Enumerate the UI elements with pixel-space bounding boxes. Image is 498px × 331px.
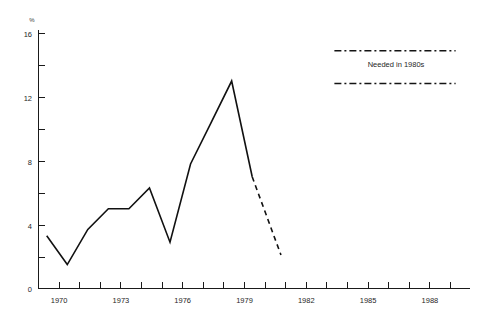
x-tick-label-1973: 1973 [113,296,130,305]
x-tick-label-1979: 1979 [236,296,253,305]
x-tick-label-1976: 1976 [174,296,191,305]
y-axis-label: % [29,17,35,23]
series-line-projected [252,177,281,255]
y-tick-label-16: 16 [24,30,32,39]
y-tick-label-12: 12 [24,94,32,103]
x-tick-group [39,282,451,289]
line-chart: % 16 12 8 4 0 [0,0,498,331]
y-tick-label-4: 4 [28,222,32,231]
y-tick-label-8: 8 [28,158,32,167]
x-tick-label-1988: 1988 [422,296,439,305]
y-tick-label-0: 0 [28,285,32,294]
x-tick-label-1970: 1970 [51,296,68,305]
y-tick-group [39,34,46,258]
series-line-actual [47,81,252,265]
x-tick-label-1985: 1985 [360,296,377,305]
needed-in-1980s-label: Needed in 1980s [368,60,425,69]
x-tick-label-1982: 1982 [298,296,315,305]
chart-container: % 16 12 8 4 0 [0,0,498,331]
